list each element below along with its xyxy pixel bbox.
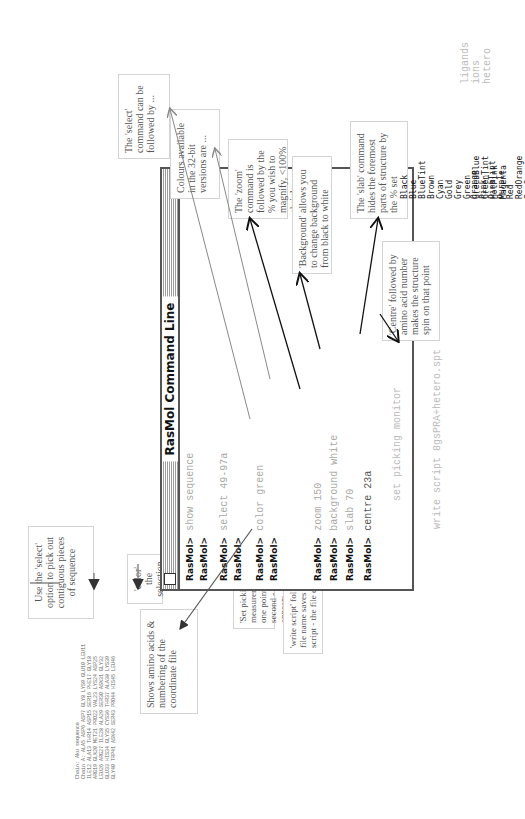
rotated-diagram: Chain: Aku sequence Chain A: ALA5 ASP6 A…: [0, 0, 525, 819]
connector-arrows: [0, 0, 525, 819]
